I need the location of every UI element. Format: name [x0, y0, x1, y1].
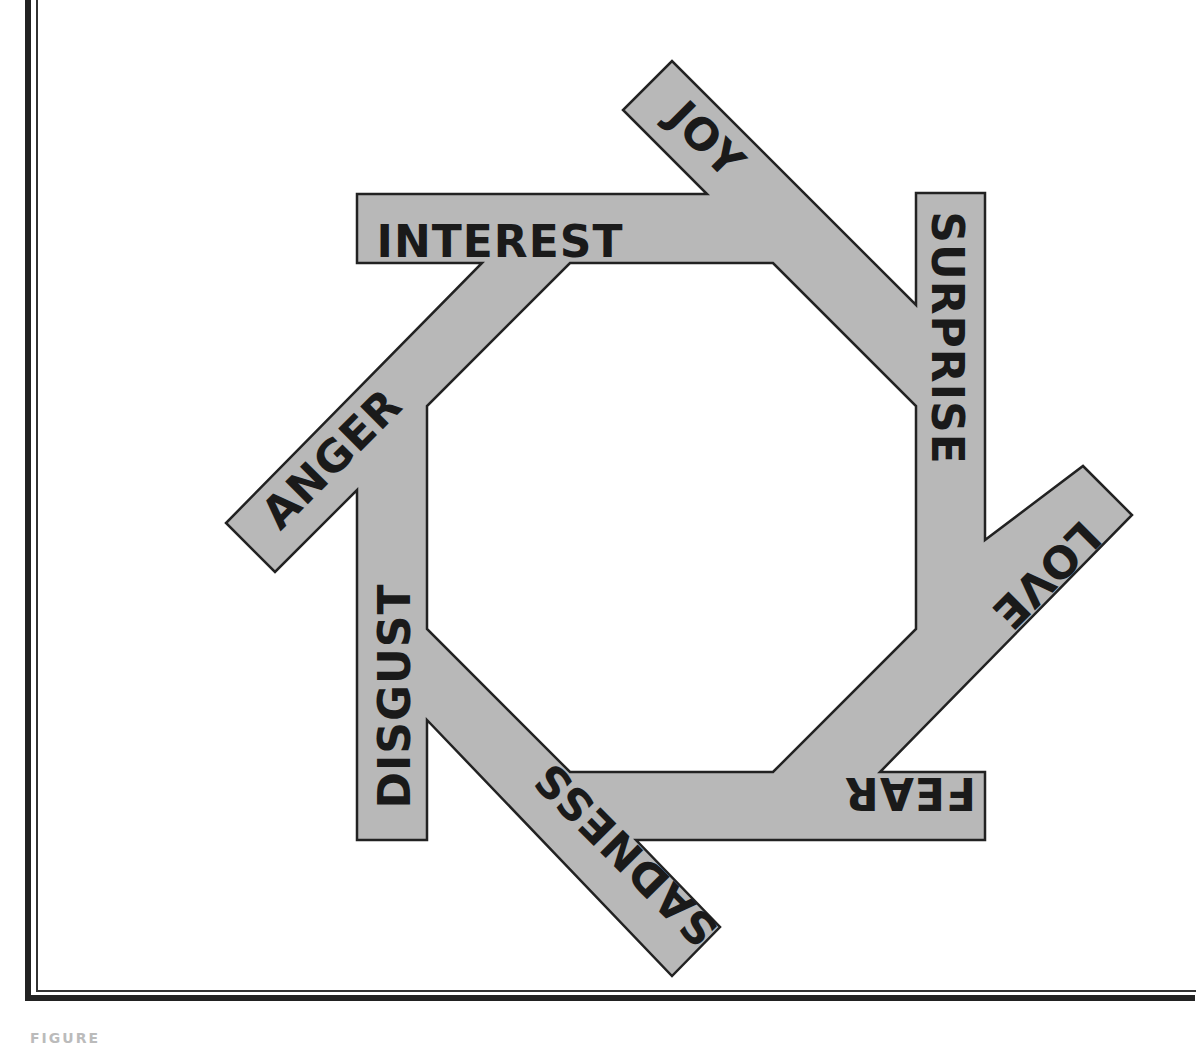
- emotion-label-interest: INTEREST: [377, 216, 624, 267]
- emotion-label-fear: FEAR: [844, 768, 976, 819]
- pinwheel-shape: [226, 61, 1132, 976]
- emotion-label-surprise: SURPRISE: [922, 211, 973, 465]
- emotion-label-disgust: DISGUST: [369, 583, 420, 808]
- figure-caption: FIGURE: [30, 1030, 100, 1046]
